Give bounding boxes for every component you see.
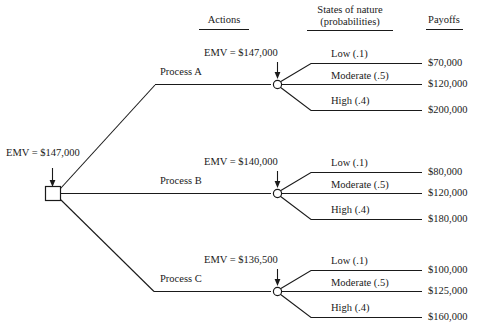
state-label-a-moderate: Moderate (.5) [331, 70, 389, 81]
payoff-label-b-high: $180,000 [428, 213, 467, 224]
emv-label-root: EMV = $147,000 [6, 147, 80, 158]
header-payoffs: Payoffs [414, 14, 474, 25]
header-states-underline [307, 30, 393, 31]
state-label-a-low: Low (.1) [331, 48, 368, 59]
header-actions: Actions [188, 14, 260, 25]
chance-node-process-a [273, 80, 281, 88]
emv-arrowhead-process-a [275, 72, 281, 79]
state-label-a-high: High (.4) [331, 95, 370, 106]
action-label-process-a: Process A [160, 66, 202, 77]
branch-line-process-c [61, 200, 155, 292]
chance-node-process-c [273, 287, 281, 295]
state-label-c-high: High (.4) [331, 302, 370, 313]
state-label-c-low: Low (.1) [331, 255, 368, 266]
payoff-label-c-moderate: $125,000 [428, 285, 467, 296]
payoff-label-a-low: $70,000 [428, 57, 462, 68]
header-payoffs-underline [426, 29, 463, 30]
branch-line-process-a [61, 85, 156, 189]
action-label-process-c: Process C [160, 273, 202, 284]
header-states-of-nature-line2: (probabilities) [300, 16, 400, 28]
payoff-label-b-moderate: $120,000 [428, 187, 467, 198]
payoff-label-c-high: $160,000 [428, 311, 467, 322]
chance-node-process-b [273, 189, 281, 197]
payoff-label-a-high: $200,000 [428, 104, 467, 115]
emv-arrowhead-process-c [275, 279, 281, 286]
state-label-b-low: Low (.1) [331, 157, 368, 168]
state-label-b-moderate: Moderate (.5) [331, 179, 389, 190]
decision-node-square [46, 187, 61, 201]
emv-label-process-b: EMV = $140,000 [204, 156, 278, 167]
emv-arrowhead-process-b [275, 181, 281, 188]
header-actions-underline [199, 29, 249, 30]
emv-label-process-c: EMV = $136,500 [204, 254, 278, 265]
state-label-b-high: High (.4) [331, 204, 370, 215]
payoff-label-a-moderate: $120,000 [428, 78, 467, 89]
emv-label-process-a: EMV = $147,000 [204, 47, 278, 58]
action-label-process-b: Process B [160, 175, 202, 186]
state-label-c-moderate: Moderate (.5) [331, 277, 389, 288]
payoff-label-c-low: $100,000 [428, 264, 467, 275]
header-states-of-nature-line1: States of nature [300, 4, 400, 16]
payoff-label-b-low: $80,000 [428, 166, 462, 177]
